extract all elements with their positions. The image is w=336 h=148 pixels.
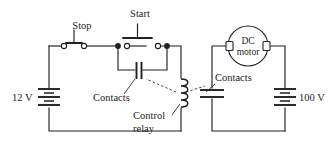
wire-holding-left — [118, 46, 135, 70]
motor-terminal-left — [226, 42, 233, 51]
contacts-right-label: Contacts — [215, 72, 252, 83]
linkage-to-holding-contacts — [146, 79, 176, 92]
battery-12v — [38, 89, 60, 105]
battery-100v — [274, 89, 296, 105]
stop-switch[interactable] — [61, 30, 86, 49]
motor-body — [228, 26, 268, 66]
wire-holding-right — [143, 46, 167, 70]
battery-12v-label: 12 V — [12, 92, 33, 103]
control-relay-leader — [172, 104, 180, 115]
wire-power-bottom-left — [212, 99, 285, 131]
start-switch[interactable] — [115, 24, 170, 49]
dc-motor: DC motor — [226, 26, 270, 66]
control-relay-label-line2: relay — [133, 123, 155, 134]
start-terminal-left — [124, 43, 129, 48]
motor-label-line1: DC — [241, 36, 254, 46]
control-relay-coil — [181, 79, 188, 107]
motor-label-line2: motor — [237, 47, 261, 57]
control-relay-label-line1: Control — [133, 110, 165, 121]
stop-terminal-left — [61, 43, 66, 48]
circuit-diagram: 12 V DC motor — [0, 0, 336, 148]
power-contacts[interactable] — [200, 90, 224, 97]
start-label: Start — [130, 8, 150, 19]
wire-start-to-coil — [160, 46, 181, 78]
linkage-to-power-contacts — [186, 86, 205, 92]
wire-power-right-riser — [268, 46, 285, 88]
circuit-svg: 12 V DC motor — [0, 0, 336, 148]
motor-terminal-right — [263, 42, 270, 51]
battery-100v-label: 100 V — [299, 92, 325, 103]
coil-windings — [181, 79, 188, 107]
stop-terminal-right — [81, 43, 86, 48]
relay-linkage-dashed — [146, 79, 205, 92]
stop-label: Stop — [72, 20, 91, 31]
start-terminal-right — [155, 43, 160, 48]
holding-contacts[interactable] — [118, 46, 167, 79]
